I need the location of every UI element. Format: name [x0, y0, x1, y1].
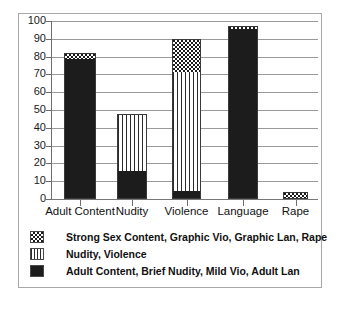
bar-segment-check — [65, 53, 95, 59]
bar-segment-solid — [229, 29, 257, 198]
y-tick-label-50: 50 — [20, 104, 46, 115]
chart-legend: Strong Sex Content, Graphic Vio, Graphic… — [30, 228, 315, 279]
y-tick-mark-100 — [46, 21, 51, 22]
gridline-0 — [51, 199, 318, 200]
legend-label: Strong Sex Content, Graphic Vio, Graphic… — [66, 231, 327, 243]
y-tick-label-40: 40 — [20, 122, 46, 133]
legend-swatch-check — [30, 231, 44, 243]
chart-figure: 1009080706050403020100 Adult ContentNudi… — [0, 0, 340, 309]
bar-rape — [283, 192, 308, 199]
y-tick-label-90: 90 — [20, 33, 46, 44]
x-axis-label-rape: Rape — [251, 204, 340, 218]
bar-segment-solid — [65, 59, 95, 198]
bar-language — [228, 26, 258, 199]
y-axis-line — [51, 21, 52, 200]
y-tick-label-100: 100 — [20, 15, 46, 26]
y-tick-mark-90 — [46, 39, 51, 40]
y-tick-mark-20 — [46, 163, 51, 164]
legend-swatch-stripes — [30, 248, 44, 260]
y-tick-mark-70 — [46, 74, 51, 75]
legend-item: Nudity, Violence — [30, 245, 315, 262]
gridline-100 — [51, 21, 318, 22]
legend-swatch-solid — [30, 265, 44, 277]
bar-segment-stripes — [173, 72, 200, 191]
y-tick-label-10: 10 — [20, 175, 46, 186]
y-tick-mark-0 — [46, 199, 51, 200]
y-tick-label-70: 70 — [20, 68, 46, 79]
plot-area — [51, 21, 318, 199]
y-tick-mark-50 — [46, 110, 51, 111]
y-tick-mark-40 — [46, 128, 51, 129]
bar-segment-check — [173, 39, 200, 72]
legend-item: Strong Sex Content, Graphic Vio, Graphic… — [30, 228, 315, 245]
y-tick-mark-10 — [46, 181, 51, 182]
bar-segment-solid — [173, 191, 200, 198]
legend-item: Adult Content, Brief Nudity, Mild Vio, A… — [30, 262, 315, 279]
bar-segment-check — [284, 192, 307, 198]
y-tick-mark-60 — [46, 92, 51, 93]
y-tick-label-60: 60 — [20, 86, 46, 97]
bar-segment-stripes — [118, 114, 146, 172]
y-axis-ticks: 1009080706050403020100 — [19, 21, 46, 199]
y-tick-mark-30 — [46, 146, 51, 147]
bar-violence — [172, 39, 201, 199]
y-tick-label-80: 80 — [20, 51, 46, 62]
x-axis-labels: Adult ContentNudityViolenceLanguageRape — [18, 204, 322, 222]
legend-label: Adult Content, Brief Nudity, Mild Vio, A… — [66, 265, 300, 277]
legend-label: Nudity, Violence — [66, 248, 147, 260]
y-tick-label-0: 0 — [20, 193, 46, 204]
bar-adult-content — [64, 53, 96, 199]
y-tick-label-20: 20 — [20, 157, 46, 168]
y-tick-mark-80 — [46, 57, 51, 58]
bar-segment-check — [229, 26, 257, 29]
bar-nudity — [117, 114, 147, 199]
y-tick-label-30: 30 — [20, 140, 46, 151]
bar-segment-solid — [118, 171, 146, 198]
